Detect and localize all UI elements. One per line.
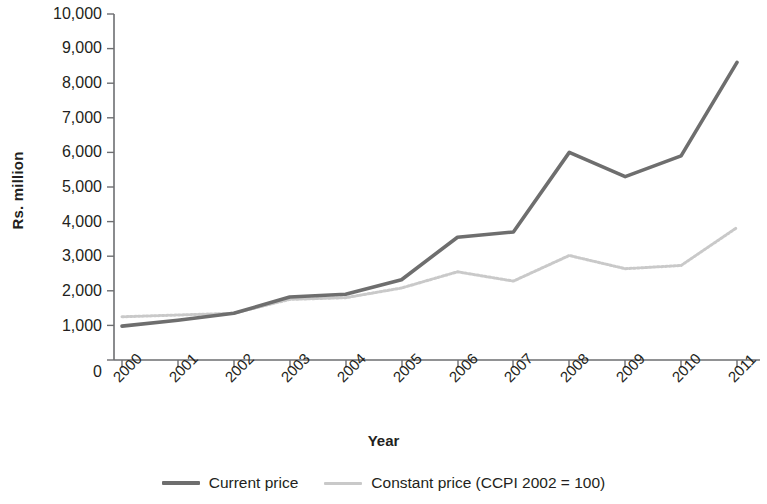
x-axis-title: Year: [0, 432, 767, 449]
legend-item-constant-price[interactable]: Constant price (CCPI 2002 = 100): [324, 474, 605, 492]
chart-legend: Current price Constant price (CCPI 2002 …: [0, 474, 767, 492]
line-chart: Rs. million 10,000 9,000 8,000 7,000 6,0…: [0, 0, 767, 504]
series-line-current-price: [122, 62, 737, 326]
series-line-constant-price: [122, 228, 737, 317]
legend-item-current-price[interactable]: Current price: [162, 474, 299, 492]
y-axis-ticks: [107, 14, 114, 360]
legend-label-current-price: Current price: [209, 474, 299, 492]
plot-area: [0, 0, 767, 430]
legend-swatch-current-price: [162, 481, 200, 485]
legend-swatch-constant-price: [324, 482, 362, 485]
legend-label-constant-price: Constant price (CCPI 2002 = 100): [371, 474, 605, 492]
